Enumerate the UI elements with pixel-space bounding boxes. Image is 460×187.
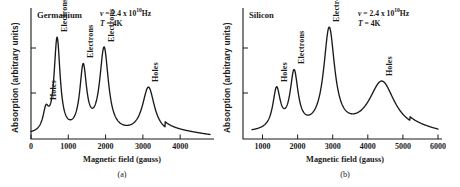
temperature-symbol: T (358, 19, 363, 28)
peak-label-holes: Holes (151, 62, 160, 82)
x-tick-label: 4000 (172, 142, 188, 151)
silicon-y-axis-label: Absorption (arbitrary units) (222, 22, 232, 133)
panel-silicon: Absorption (arbitrary units) Silicon ν =… (230, 0, 460, 187)
frequency-equation: = 2.4 x 10 (363, 9, 394, 18)
frequency-symbol: ν (358, 9, 361, 18)
peak-label-holes: Holes (280, 62, 289, 82)
x-tick-label: 3000 (325, 142, 341, 151)
germanium-y-axis-label: Absorption (arbitrary units) (10, 22, 20, 133)
peak-label-electrons: Electrons (332, 0, 341, 22)
frequency-unit: Hz (400, 9, 409, 18)
germanium-x-axis-label: Magnetic field (gauss) (83, 155, 161, 164)
silicon-panel-title: Silicon (249, 10, 274, 20)
cyclotron-resonance-figure: Absorption (arbitrary units) Germanium ν… (0, 0, 460, 187)
silicon-axis-lines (243, 8, 442, 139)
x-tick-label: 1000 (60, 142, 76, 151)
x-tick-label: 6000 (430, 142, 446, 151)
silicon-x-ticks (263, 135, 438, 140)
silicon-caption: (b) (340, 170, 350, 179)
germanium-caption: (a) (117, 170, 126, 179)
temperature-value: = 4K (365, 19, 381, 28)
peak-label-electrons: Electrons (60, 0, 69, 32)
frequency-symbol: ν (100, 9, 103, 18)
silicon-x-axis-label: Magnetic field (gauss) (306, 155, 384, 164)
x-tick-label: 5000 (395, 142, 411, 151)
peak-label-electrons: Electrons (86, 25, 95, 58)
peak-label-electrons: Electrons (107, 9, 116, 42)
x-tick-label: 1000 (255, 142, 271, 151)
x-tick-label: 2000 (290, 142, 306, 151)
silicon-temperature-line: T = 4K (358, 19, 409, 29)
x-tick-label: 3000 (135, 142, 151, 151)
silicon-frequency-line: ν = 2.4 x 1010Hz (358, 9, 409, 19)
germanium-x-ticks (31, 135, 180, 140)
peak-label-holes: Holes (385, 56, 394, 76)
peak-label-holes: Holes (49, 80, 58, 100)
silicon-conditions-annotation: ν = 2.4 x 1010Hz T = 4K (358, 9, 409, 29)
frequency-unit: Hz (142, 9, 151, 18)
x-tick-label: 0 (29, 142, 33, 151)
x-tick-label: 2000 (98, 142, 114, 151)
germanium-y-ticks (31, 48, 36, 93)
temperature-symbol: T (100, 19, 105, 28)
panel-germanium: Absorption (arbitrary units) Germanium ν… (0, 0, 230, 187)
x-tick-label: 4000 (360, 142, 376, 151)
silicon-y-ticks (243, 48, 248, 93)
peak-label-electrons: Electrons (297, 31, 306, 64)
